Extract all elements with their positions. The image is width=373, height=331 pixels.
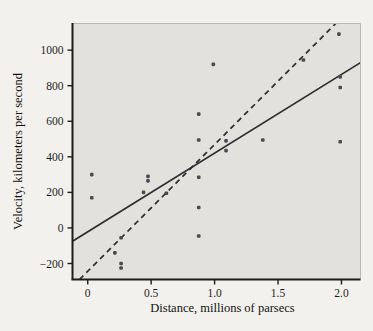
data-point [197,234,201,238]
data-point [165,191,169,195]
y-axis-tick-label: 1000 [41,44,64,56]
y-axis-tick-label: 600 [46,115,64,127]
y-axis-title: Velocity, kilometers per second [11,72,25,230]
data-point [197,206,201,210]
data-point [302,58,306,62]
data-point [146,179,150,183]
data-point [224,139,228,143]
x-axis-tick-label: 2.0 [334,287,349,299]
data-point [119,262,123,266]
chart-canvas: −2000200400600800100000.51.01.52.0Distan… [0,0,373,331]
data-point [146,175,150,179]
x-axis-tick-label: 0.5 [144,287,159,299]
data-point [197,175,201,179]
data-point [224,149,228,153]
x-axis-tick-label: 1.0 [207,287,222,299]
y-axis-tick-label: 0 [58,222,64,234]
data-point [338,140,342,144]
data-point [142,191,146,195]
hubble-velocity-distance-chart: −2000200400600800100000.51.01.52.0Distan… [0,0,373,331]
data-point [338,75,342,79]
data-point [90,173,94,177]
data-point [119,266,123,270]
y-axis-tick-label: 200 [46,186,64,198]
data-point [113,251,117,255]
data-point [261,138,265,142]
data-point [212,63,216,67]
x-axis-tick-label: 1.5 [271,287,286,299]
x-axis-tick-label: 0 [85,287,91,299]
x-axis-title: Distance, millions of parsecs [150,301,295,315]
data-point [90,196,94,200]
data-point [197,112,201,116]
data-point [119,236,123,240]
y-axis-tick-label: −200 [40,258,64,270]
data-point [337,32,341,36]
data-point [338,86,342,90]
y-axis-tick-label: 800 [46,80,64,92]
y-axis-tick-label: 400 [46,151,64,163]
data-point [197,138,201,142]
